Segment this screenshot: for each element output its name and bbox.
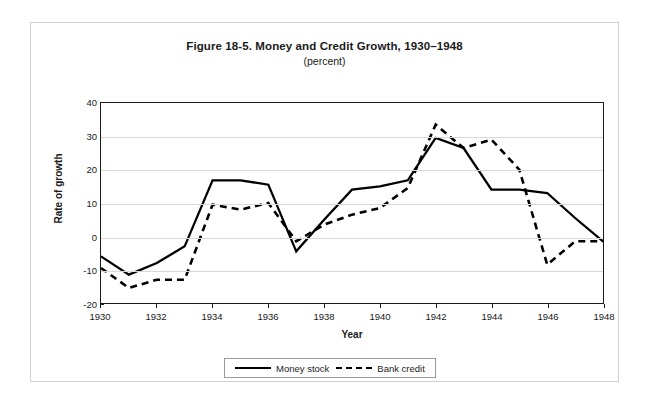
x-tick-label: 1942 (416, 311, 456, 322)
y-tick-label: 40 (63, 97, 97, 108)
plot-area (100, 102, 604, 304)
x-tick-mark (436, 304, 437, 308)
x-tick-mark (380, 304, 381, 308)
y-tick-label: 20 (63, 164, 97, 175)
x-tick-mark (212, 304, 213, 308)
legend-label: Bank credit (377, 363, 425, 374)
series-line (101, 138, 603, 275)
series-line (101, 125, 603, 288)
x-tick-mark (156, 304, 157, 308)
chart-subtitle: (percent) (31, 55, 618, 67)
x-tick-label: 1934 (192, 311, 232, 322)
x-tick-mark (324, 304, 325, 308)
legend-label: Money stock (276, 363, 329, 374)
chart-legend: Money stockBank credit (224, 358, 436, 378)
x-tick-label: 1932 (136, 311, 176, 322)
figure-border: Figure 18-5. Money and Credit Growth, 19… (30, 22, 619, 382)
y-tick-label: 0 (63, 231, 97, 242)
x-tick-mark (604, 304, 605, 308)
y-tick-label: 30 (63, 130, 97, 141)
x-axis-title: Year (100, 329, 604, 340)
plot-lines (101, 103, 603, 303)
x-tick-label: 1940 (360, 311, 400, 322)
gridline (101, 137, 603, 138)
x-axis-tick-marks (100, 304, 604, 309)
x-tick-label: 1944 (472, 311, 512, 322)
x-tick-label: 1930 (80, 311, 120, 322)
gridline (101, 170, 603, 171)
legend-dashed-line-icon (336, 367, 372, 369)
chart-title: Figure 18-5. Money and Credit Growth, 19… (31, 40, 618, 52)
x-tick-label: 1938 (304, 311, 344, 322)
gridline (101, 204, 603, 205)
y-axis-tick-labels: 403020100-10-20 (59, 102, 97, 304)
title-block: Figure 18-5. Money and Credit Growth, 19… (31, 40, 618, 67)
y-tick-label: -20 (63, 299, 97, 310)
x-tick-label: 1948 (584, 311, 624, 322)
legend-entry: Money stock (235, 363, 329, 374)
x-tick-label: 1936 (248, 311, 288, 322)
x-tick-mark (548, 304, 549, 308)
y-tick-label: -10 (63, 265, 97, 276)
y-tick-label: 10 (63, 198, 97, 209)
gridline (101, 271, 603, 272)
legend-solid-line-icon (235, 367, 271, 370)
gridline (101, 238, 603, 239)
x-tick-mark (492, 304, 493, 308)
x-tick-label: 1946 (528, 311, 568, 322)
legend-entry: Bank credit (336, 363, 425, 374)
x-tick-mark (100, 304, 101, 308)
x-axis-tick-labels: 1930193219341936193819401942194419461948 (100, 311, 604, 325)
x-tick-mark (268, 304, 269, 308)
